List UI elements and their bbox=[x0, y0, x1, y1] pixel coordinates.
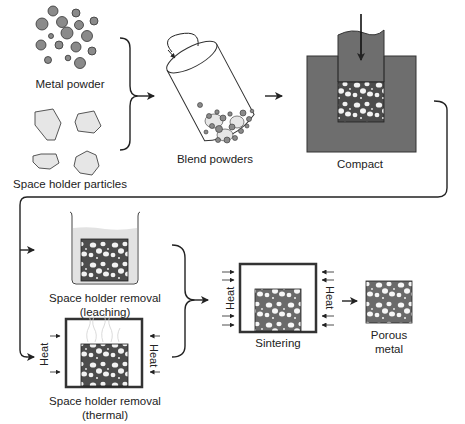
metal-powder-icon bbox=[36, 6, 98, 69]
thermal-heat-right-label: Heat bbox=[148, 344, 160, 367]
porous-metal-icon bbox=[366, 281, 412, 323]
sintering-furnace-icon bbox=[240, 264, 316, 332]
compact-label: Compact bbox=[330, 157, 390, 171]
thermal-heat-left-label: Heat bbox=[38, 343, 50, 366]
space-holder-label: Space holder particles bbox=[10, 177, 130, 191]
sintering-label: Sintering bbox=[248, 336, 308, 350]
combine-brace bbox=[120, 38, 138, 150]
sintering-heat-right-label: Heat bbox=[324, 286, 336, 309]
leaching-beaker-icon bbox=[70, 212, 140, 284]
sintering-heat-left-label: Heat bbox=[224, 287, 236, 310]
leaching-label-line1: Space holder removal bbox=[45, 291, 165, 305]
metal-powder-label: Metal powder bbox=[30, 77, 110, 91]
thermal-removal-furnace-icon bbox=[66, 313, 142, 387]
merge-brace bbox=[172, 245, 195, 357]
leaching-label-line2: (leaching) bbox=[45, 305, 165, 319]
process-diagram bbox=[0, 0, 465, 424]
porous-metal-label-line1: Porous bbox=[359, 328, 419, 342]
leaching-label: Space holder removal (leaching) bbox=[45, 291, 165, 319]
thermal-label: Space holder removal (thermal) bbox=[45, 394, 165, 422]
blend-powders-label: Blend powders bbox=[170, 152, 260, 166]
thermal-label-line1: Space holder removal bbox=[45, 394, 165, 408]
space-holder-particles-icon bbox=[33, 109, 101, 175]
blender-jar-icon bbox=[162, 33, 257, 147]
compaction-die-icon bbox=[307, 14, 416, 152]
porous-metal-label-line2: metal bbox=[359, 342, 419, 356]
porous-metal-label: Porous metal bbox=[359, 328, 419, 356]
thermal-label-line2: (thermal) bbox=[45, 408, 165, 422]
